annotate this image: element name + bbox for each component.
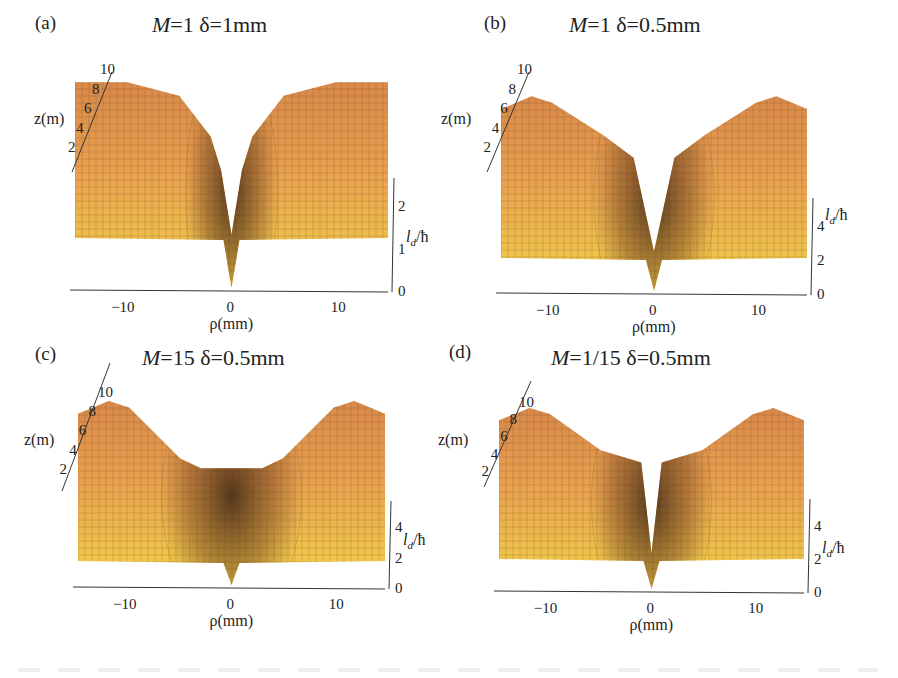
surface-plot — [0, 333, 449, 658]
surface-plot — [0, 0, 449, 325]
panel-c: (c)M=15 δ=0.5mm−10010ρ(mm)024ld/ħ246810z… — [0, 333, 449, 658]
x-axis-line — [70, 290, 388, 292]
z-axis-label: z(m) — [438, 431, 468, 449]
ld-tick-label: 4 — [395, 520, 403, 535]
ld-axis-label: ld/ħ — [403, 531, 425, 551]
z-tick-label: 4 — [69, 443, 77, 458]
ld-axis-label: ld/ħ — [406, 228, 428, 248]
z-axis-label: z(m) — [24, 431, 54, 449]
z-tick-label: 2 — [481, 464, 489, 479]
z-tick-label: 8 — [510, 412, 518, 427]
ld-hbar: /ħ — [835, 206, 847, 223]
caption-fragment — [18, 668, 878, 672]
x-tick-label: 0 — [649, 303, 657, 318]
z-tick-label: 2 — [483, 140, 491, 155]
ld-hbar: /ħ — [416, 228, 428, 245]
x-axis-line — [496, 293, 807, 295]
ld-hbar: /ħ — [832, 539, 844, 556]
ld-tick-label: 0 — [817, 287, 825, 302]
z-axis-label: z(m) — [34, 110, 64, 128]
ld-hbar: /ħ — [413, 531, 425, 548]
x-axis-label: ρ(mm) — [210, 612, 254, 630]
x-tick-label: −10 — [536, 303, 559, 318]
ld-tick-label: 1 — [398, 242, 406, 257]
x-tick-label: 10 — [329, 597, 344, 612]
z-tick-label: 6 — [79, 423, 87, 438]
ld-tick-label: 4 — [814, 519, 822, 534]
surface-plot — [449, 0, 898, 325]
x-tick-label: −10 — [113, 597, 136, 612]
x-tick-label: −10 — [534, 601, 557, 616]
panel-b: (b)M=1 δ=0.5mm−10010ρ(mm)024ld/ħ246810z(… — [449, 0, 898, 325]
x-tick-label: 0 — [227, 597, 235, 612]
z-tick-label: 4 — [491, 447, 499, 462]
z-tick-label: 8 — [92, 82, 100, 97]
x-axis-label: ρ(mm) — [630, 616, 674, 634]
z-tick-label: 10 — [98, 385, 113, 400]
z-tick-label: 10 — [517, 62, 532, 77]
ld-axis-label: ld/ħ — [822, 539, 844, 559]
ld-tick-label: 2 — [817, 253, 825, 268]
panel-a: (a)M=1 δ=1mm−10010ρ(mm)012ld/ħ246810z(m) — [0, 0, 449, 325]
x-tick-label: 10 — [331, 300, 346, 315]
z-tick-label: 6 — [500, 429, 508, 444]
ld-tick-label: 4 — [817, 219, 825, 234]
z-tick-label: 8 — [509, 82, 517, 97]
z-tick-label: 2 — [60, 462, 68, 477]
ld-tick-label: 2 — [398, 199, 406, 214]
x-tick-label: 10 — [748, 601, 763, 616]
ld-axis-label: ld/ħ — [825, 206, 847, 226]
x-tick-label: 0 — [227, 300, 235, 315]
x-axis-line — [73, 587, 385, 589]
panel-d: (d)M=1/15 δ=0.5mm−10010ρ(mm)024ld/ħ24681… — [449, 333, 898, 658]
surface-plot — [449, 333, 898, 658]
x-axis-label: ρ(mm) — [210, 315, 254, 333]
z-tick-label: 6 — [84, 101, 92, 116]
x-axis-line — [494, 591, 804, 593]
z-tick-label: 2 — [68, 140, 76, 155]
ld-tick-label: 2 — [814, 552, 822, 567]
ld-tick-label: 0 — [395, 581, 403, 596]
z-tick-label: 8 — [88, 404, 96, 419]
z-tick-label: 10 — [519, 395, 534, 410]
z-tick-label: 10 — [100, 62, 115, 77]
ld-tick-label: 0 — [814, 585, 822, 600]
ld-tick-label: 2 — [395, 551, 403, 566]
ld-tick-label: 0 — [398, 284, 406, 299]
z-tick-label: 6 — [500, 101, 508, 116]
z-tick-label: 4 — [492, 121, 500, 136]
x-tick-label: −10 — [111, 300, 134, 315]
z-axis-label: z(m) — [441, 110, 471, 128]
x-tick-label: 10 — [751, 303, 766, 318]
x-tick-label: 0 — [647, 601, 655, 616]
z-tick-label: 4 — [76, 121, 84, 136]
